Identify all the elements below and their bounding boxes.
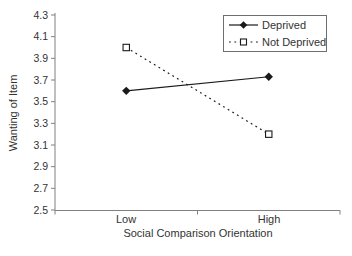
- legend-label-not-deprived: Not Deprived: [262, 36, 326, 48]
- x-axis-title: Social Comparison Orientation: [123, 227, 272, 239]
- data-point-open-square: [123, 44, 129, 50]
- y-tick-label: 4.3: [33, 9, 48, 21]
- x-category-label-low: Low: [116, 213, 136, 225]
- y-tick-label: 2.5: [33, 204, 48, 216]
- data-point-open-square: [266, 131, 272, 137]
- y-tick-label: 3.7: [33, 74, 48, 86]
- y-tick-label: 3.5: [33, 95, 48, 107]
- y-tick-label: 4.1: [33, 30, 48, 42]
- y-tick-label: 2.9: [33, 160, 48, 172]
- x-category-label-high: High: [258, 213, 281, 225]
- series-line-deprived: [126, 77, 269, 91]
- line-chart-figure: 2.52.72.93.13.33.53.73.94.14.3 Wanting o…: [0, 0, 352, 256]
- legend-label-deprived: Deprived: [262, 19, 306, 31]
- chart-canvas: 2.52.72.93.13.33.53.73.94.14.3 Wanting o…: [0, 0, 352, 256]
- y-tick-label: 3.9: [33, 52, 48, 64]
- series-layer: [122, 44, 273, 137]
- legend: Deprived Not Deprived: [224, 16, 327, 52]
- series-line-not-deprived: [126, 48, 269, 135]
- y-tick-label: 3.3: [33, 117, 48, 129]
- data-point-filled-diamond: [265, 73, 273, 81]
- legend-marker-open-square-icon: [241, 39, 247, 45]
- y-tick-label: 2.7: [33, 182, 48, 194]
- y-axis-title: Wanting of Item: [7, 75, 19, 152]
- data-point-filled-diamond: [122, 87, 130, 95]
- y-tick-label: 3.1: [33, 139, 48, 151]
